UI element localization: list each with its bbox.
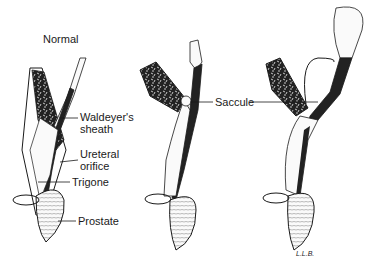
panel-normal — [13, 58, 86, 242]
label-waldeyers-sheath-line1: Waldeyer's — [80, 111, 134, 123]
label-trigone: Trigone — [72, 176, 109, 188]
panel-stage3 — [250, 7, 363, 250]
panel-stage2 — [140, 40, 213, 250]
caption-normal: Normal — [43, 33, 78, 45]
label-ureteral-orifice-line2: orifice — [80, 160, 109, 172]
label-ureteral-orifice-line1: Ureteral — [80, 148, 119, 160]
label-saccule: Saccule — [215, 96, 254, 108]
artist-signature: L.L.B. — [296, 248, 314, 260]
label-prostate: Prostate — [78, 215, 119, 227]
label-waldeyers-sheath-line2: sheath — [80, 123, 113, 135]
